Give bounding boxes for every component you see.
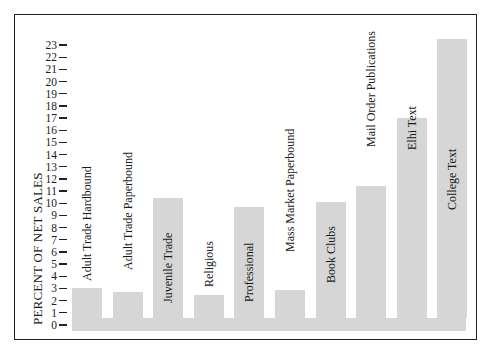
- y-tick-label: 12: [43, 173, 57, 185]
- y-tick-label: 19: [43, 88, 57, 100]
- y-tick: 5: [43, 258, 69, 270]
- y-tick: 23: [43, 39, 69, 51]
- y-tick-label: 14: [43, 149, 57, 161]
- bar: [275, 290, 305, 318]
- y-tick: 22: [43, 51, 69, 63]
- bar-label: College Text: [445, 149, 460, 210]
- y-tick-label: 7: [43, 234, 57, 246]
- y-tick-label: 3: [43, 282, 57, 294]
- y-tick: 12: [43, 173, 69, 185]
- y-tick-label: 21: [43, 63, 57, 75]
- bar-label: Adult Trade Hardbound: [80, 166, 95, 281]
- bar: [113, 292, 143, 318]
- y-tick-label: 16: [43, 124, 57, 136]
- bar-base-band: [72, 318, 466, 331]
- y-tick-mark: [59, 69, 67, 70]
- y-tick-mark: [59, 215, 67, 216]
- y-tick: 4: [43, 270, 69, 282]
- y-tick-label: 1: [43, 307, 57, 319]
- y-tick-mark: [59, 142, 67, 143]
- y-tick-mark: [59, 190, 67, 191]
- y-tick-mark: [59, 44, 67, 45]
- bar-label: Mail Order Publications: [364, 31, 379, 147]
- y-tick-mark: [59, 105, 67, 106]
- y-tick: 17: [43, 112, 69, 124]
- y-tick-label: 23: [43, 39, 57, 51]
- y-tick-mark: [59, 263, 67, 264]
- y-tick-mark: [59, 203, 67, 204]
- y-tick-mark: [59, 239, 67, 240]
- bar-label: Elhi Text: [405, 106, 420, 150]
- y-tick: 16: [43, 124, 69, 136]
- y-tick: 7: [43, 234, 69, 246]
- y-tick: 20: [43, 76, 69, 88]
- y-tick-mark: [59, 93, 67, 94]
- y-tick-label: 11: [43, 185, 57, 197]
- y-tick: 1: [43, 307, 69, 319]
- bar-label: Mass Market Paperbound: [283, 129, 298, 252]
- y-tick: 10: [43, 197, 69, 209]
- y-tick-label: 5: [43, 258, 57, 270]
- y-tick-mark: [59, 57, 67, 58]
- y-tick-mark: [59, 251, 67, 252]
- y-tick: 3: [43, 282, 69, 294]
- y-tick-label: 13: [43, 161, 57, 173]
- y-tick-label: 4: [43, 270, 57, 282]
- y-tick: 18: [43, 100, 69, 112]
- y-tick: 11: [43, 185, 69, 197]
- bar: [356, 186, 386, 318]
- y-tick: 15: [43, 136, 69, 148]
- bar-label: Juvenile Trade: [161, 233, 176, 303]
- y-tick: 0: [43, 319, 69, 331]
- bar-label: Professional: [242, 243, 257, 302]
- y-tick: 8: [43, 222, 69, 234]
- y-tick-mark: [59, 288, 67, 289]
- y-tick-label: 6: [43, 246, 57, 258]
- y-tick-mark: [59, 166, 67, 167]
- y-tick-mark: [59, 130, 67, 131]
- y-tick: 9: [43, 209, 69, 221]
- y-tick: 19: [43, 88, 69, 100]
- y-tick: 2: [43, 295, 69, 307]
- y-tick-mark: [59, 276, 67, 277]
- y-tick-label: 20: [43, 76, 57, 88]
- bar-label: Religious: [202, 241, 217, 287]
- y-tick: 6: [43, 246, 69, 258]
- y-tick: 21: [43, 63, 69, 75]
- y-tick-label: 0: [43, 319, 57, 331]
- y-tick-label: 15: [43, 136, 57, 148]
- y-tick-mark: [59, 154, 67, 155]
- y-tick-label: 17: [43, 112, 57, 124]
- y-tick-mark: [59, 227, 67, 228]
- y-tick: 13: [43, 161, 69, 173]
- y-tick-mark: [59, 300, 67, 301]
- y-tick-label: 2: [43, 295, 57, 307]
- bar-label: Adult Trade Paperbound: [121, 152, 136, 270]
- y-tick-mark: [59, 81, 67, 82]
- y-tick-mark: [59, 117, 67, 118]
- bar-label: Book Clubs: [324, 226, 339, 283]
- y-tick-mark: [59, 324, 67, 325]
- y-tick-label: 8: [43, 222, 57, 234]
- y-tick-label: 18: [43, 100, 57, 112]
- bar: [194, 295, 224, 318]
- y-tick-mark: [59, 178, 67, 179]
- y-tick-mark: [59, 312, 67, 313]
- y-tick-label: 10: [43, 197, 57, 209]
- y-tick-label: 22: [43, 51, 57, 63]
- bar: [72, 288, 102, 318]
- y-tick-label: 9: [43, 209, 57, 221]
- y-tick: 14: [43, 149, 69, 161]
